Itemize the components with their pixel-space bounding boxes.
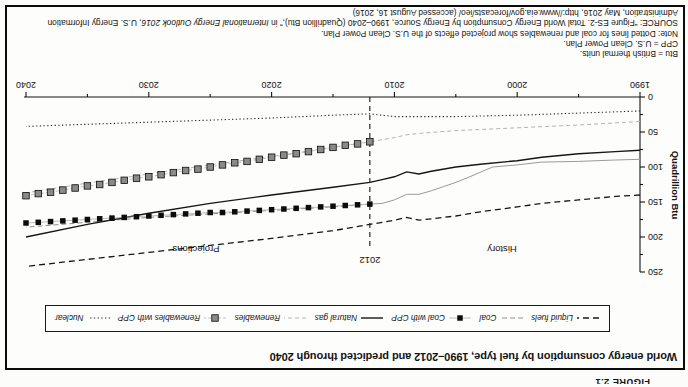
svg-text:0: 0 xyxy=(648,92,653,102)
svg-text:2010: 2010 xyxy=(384,80,404,90)
series-nuclear xyxy=(26,111,640,126)
svg-text:2000: 2000 xyxy=(507,80,527,90)
annotation-2012: 2012 xyxy=(359,255,380,266)
svg-text:200: 200 xyxy=(648,232,663,242)
series-natural-gas xyxy=(26,150,640,237)
svg-text:250: 250 xyxy=(648,267,663,277)
svg-text:50: 50 xyxy=(648,127,658,137)
y-axis-label: Quadrillion Btu xyxy=(670,151,681,220)
svg-text:100: 100 xyxy=(648,162,663,172)
svg-text:1990: 1990 xyxy=(630,80,650,90)
scanned-figure-page: FIGURE 2.1 World energy consumption by f… xyxy=(0,0,688,387)
svg-text:2030: 2030 xyxy=(139,80,159,90)
axes xyxy=(24,92,645,272)
energy-consumption-line-chart: 050100150200250199020002010202020302040Q… xyxy=(0,0,688,387)
svg-text:2040: 2040 xyxy=(16,80,36,90)
svg-text:150: 150 xyxy=(648,197,663,207)
svg-text:2020: 2020 xyxy=(262,80,282,90)
annotation-history: History xyxy=(487,244,517,255)
series-renewables-with-cpp xyxy=(23,139,373,199)
